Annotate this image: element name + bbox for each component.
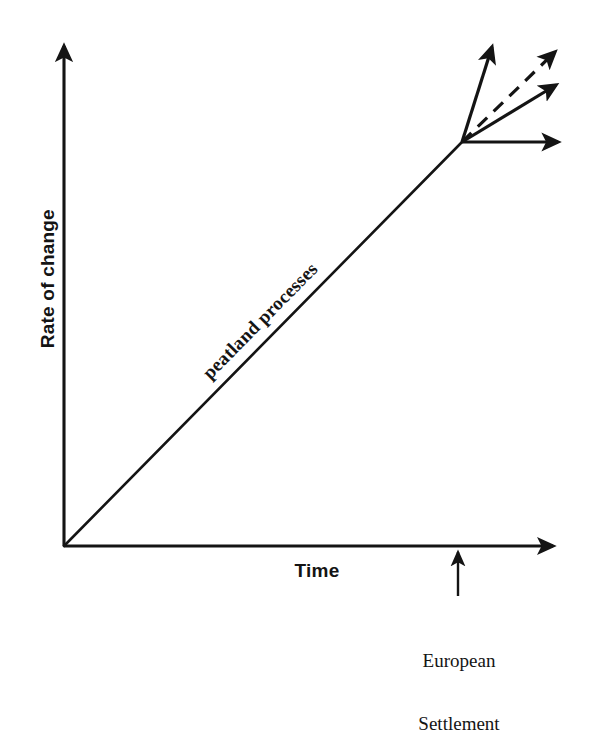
- european-settlement-annotation: European Settlement: [388, 607, 530, 734]
- european-settlement-annotation-line-1: European: [388, 650, 530, 671]
- y-axis-label: Rate of change: [37, 179, 58, 379]
- x-axis-label: Time: [247, 560, 387, 581]
- peatland-processes-line: [64, 142, 462, 546]
- european-settlement-annotation-line-2: Settlement: [388, 713, 530, 734]
